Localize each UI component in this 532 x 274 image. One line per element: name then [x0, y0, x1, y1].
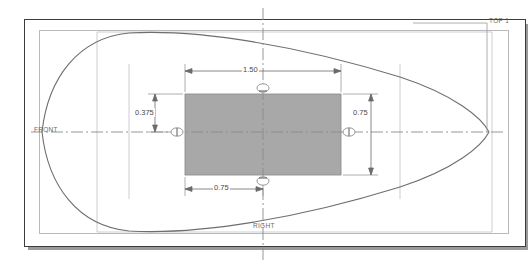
dimension-label-half-height[interactable]: 0.375 — [134, 108, 155, 117]
handle-right — [343, 128, 355, 136]
front-plane-label: FRONT — [34, 126, 58, 133]
right-plane-label: RIGHT — [253, 222, 275, 229]
dimension-label-half-width[interactable]: 0.75 — [213, 183, 230, 192]
geometry-layer — [0, 0, 532, 274]
handle-bottom — [257, 177, 269, 185]
dimension-label-full-height[interactable]: 0.75 — [352, 108, 369, 117]
top-plane-label: TOP 1 — [489, 17, 509, 24]
handle-top — [257, 84, 269, 92]
dimension-label-overall-width[interactable]: 1.50 — [242, 65, 259, 74]
drawing-canvas-root: FRONT RIGHT TOP 1 1.50 0.375 0.75 0.75 — [0, 0, 532, 274]
handle-left — [171, 128, 183, 136]
